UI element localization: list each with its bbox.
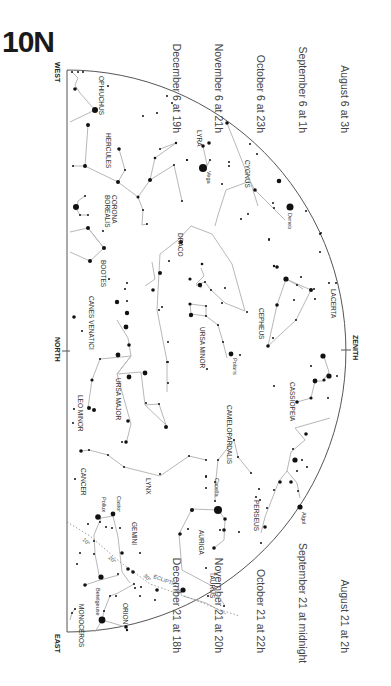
zenith-label: ZENITH <box>352 335 359 360</box>
constellation-label: CEPHEUS <box>258 308 265 340</box>
constellation-label: CORONA <box>111 195 118 224</box>
constellation-label: GEMINI <box>131 522 138 545</box>
ecliptic-mark: 20° <box>107 554 117 564</box>
ecliptic-line <box>67 522 240 616</box>
star-chart: WEST NORTH EAST ZENITH <box>0 0 391 686</box>
constellation-label: TAURUS <box>209 572 216 599</box>
star-label-capella: Capella <box>214 478 220 498</box>
constellation-label: URSA MINOR <box>199 327 206 368</box>
ecliptic-mark: 30° <box>142 572 152 582</box>
constellation-label: HERCULES <box>105 133 112 169</box>
constellation-label: AURIGA <box>198 530 205 556</box>
constellation-label: BOOTES <box>100 260 107 288</box>
constellation-label: CANCER <box>80 468 87 496</box>
star-label-betelgeuse: Betelgeuse <box>95 588 101 616</box>
star-label-algol: Algol <box>301 512 307 524</box>
east-label: EAST <box>54 634 61 653</box>
star-label-vega: Vega <box>206 171 212 184</box>
constellation-label: MONOCEROS <box>78 604 85 648</box>
constellation-label: PERSEUS <box>253 500 260 532</box>
constellation-label: URSA MAJOR <box>115 378 122 421</box>
constellation-label: OPHIUCHUS <box>98 76 105 116</box>
constellation-label: ORION <box>122 603 129 625</box>
constellation-label: LYRA <box>196 130 203 147</box>
constellation-label: LACERTA <box>330 289 337 319</box>
north-label: NORTH <box>54 337 61 362</box>
constellation-label: LYNX <box>145 478 152 495</box>
ecliptic-mark: 10° <box>81 536 91 546</box>
star-label-polaris: Polaris <box>232 358 238 375</box>
constellation-label: BOREALIS <box>104 195 111 228</box>
star-label-pollux: Pollux <box>101 497 107 512</box>
constellation-label: CANES VENATICI <box>88 296 95 350</box>
ecliptic-label: ECLIPTIC <box>153 573 178 587</box>
star-label-castor: Castor <box>116 496 122 512</box>
constellation-label: CYGNUS <box>244 160 251 188</box>
constellation-label: DRACO <box>177 233 184 256</box>
constellation-labels: OPHIUCHUS HERCULES LYRA CYGNUS CORONA BO… <box>77 76 337 648</box>
star-label-deneb: Deneb <box>287 213 293 229</box>
west-label: WEST <box>54 62 61 83</box>
constellation-label: LEO MINOR <box>77 395 84 432</box>
constellation-label: CASSIOPEIA <box>289 382 296 422</box>
constellation-label: CAMELOPARDALIS <box>226 405 233 465</box>
